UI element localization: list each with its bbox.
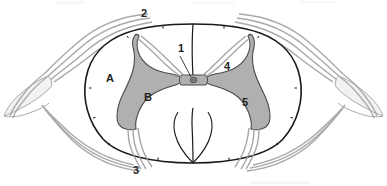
label-dorsal-root: 2 [141, 7, 147, 19]
label-ventral-root: 3 [133, 164, 139, 176]
label-gray-matter: B [144, 91, 152, 103]
spinal-cord-figure: 1 2 3 4 5 A B [0, 0, 387, 186]
spinal-cord-diagram: 1 2 3 4 5 A B [0, 0, 387, 186]
central-canal-lumen [192, 79, 194, 81]
label-white-matter: A [106, 72, 114, 84]
label-central-canal: 1 [178, 42, 184, 54]
label-anterior-horn: 5 [242, 96, 248, 108]
label-posterior-horn: 4 [224, 60, 231, 72]
